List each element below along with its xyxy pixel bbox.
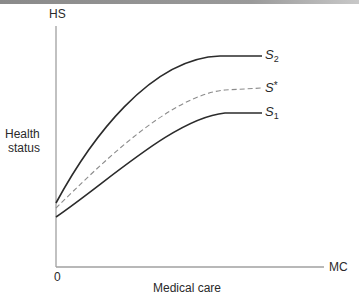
x-axis-label: Medical care <box>153 281 221 295</box>
y-axis-short-label: HS <box>49 7 66 21</box>
x-axis-short-label: MC <box>329 260 348 274</box>
curve-label-s1: S1 <box>265 104 279 121</box>
curve-s2 <box>56 56 262 203</box>
curve-label-s2: S2 <box>265 47 279 64</box>
y-axis-label-line2: status <box>8 141 40 155</box>
y-axis-label-line1: Health <box>5 127 40 141</box>
origin-label: 0 <box>54 270 61 284</box>
curve-label-s-star: S* <box>265 80 278 95</box>
curve-s1 <box>56 113 262 217</box>
curve-s-star <box>56 88 262 208</box>
health-production-diagram <box>0 0 359 303</box>
